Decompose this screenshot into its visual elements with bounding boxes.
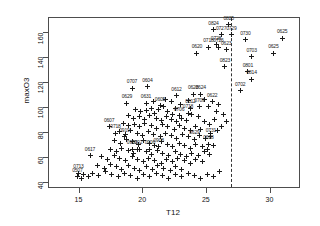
data-point (193, 142, 198, 147)
data-point (165, 124, 170, 129)
data-point-label: 0718 (203, 38, 213, 43)
data-point (192, 137, 197, 142)
data-point-label: 0718 (183, 104, 193, 109)
data-point (182, 143, 187, 148)
data-point-label: 0908 (154, 138, 164, 143)
data-point (216, 102, 221, 107)
y-tick-label: 160 (37, 32, 44, 58)
data-point (116, 174, 121, 179)
data-point-label: 0814 (246, 70, 256, 75)
y-tick-label: 140 (37, 57, 44, 83)
data-point (109, 172, 114, 177)
data-point (177, 113, 182, 118)
data-point (103, 169, 108, 174)
data-point (158, 103, 163, 108)
data-point (147, 113, 152, 118)
data-point-label: 0629 (122, 94, 132, 99)
data-point-label: 0629 (189, 130, 199, 135)
data-point (108, 147, 113, 152)
data-point (219, 124, 224, 129)
data-point (147, 174, 152, 179)
x-axis-label: T12 (128, 208, 218, 217)
y-tick-label: 60 (37, 157, 44, 183)
y-tick-mark (43, 132, 48, 133)
data-point-label: 0801 (243, 63, 253, 68)
data-point (212, 117, 217, 122)
data-point (99, 154, 104, 159)
data-point (108, 162, 113, 167)
data-point (95, 163, 100, 168)
data-point (130, 86, 135, 91)
data-point (210, 99, 215, 104)
data-point (135, 147, 140, 152)
data-point (196, 114, 201, 119)
data-point (184, 118, 189, 123)
data-point (194, 51, 199, 56)
data-point (122, 171, 127, 176)
data-point (249, 54, 254, 59)
data-point (117, 156, 122, 161)
data-point-label: 0702 (235, 82, 245, 87)
x-tick-mark (79, 188, 80, 193)
data-point (217, 169, 222, 174)
x-tick-label: 20 (130, 196, 154, 203)
data-point (146, 156, 151, 161)
data-point-label: 0703 (246, 48, 256, 53)
data-point (206, 104, 211, 109)
data-point-label: 0622 (207, 93, 217, 98)
data-point-label: 0823 (220, 58, 230, 63)
data-point (131, 116, 136, 121)
data-point (147, 147, 152, 152)
data-point (113, 131, 118, 136)
x-tick-label: 15 (67, 196, 91, 203)
data-point (135, 157, 140, 162)
data-point (145, 84, 150, 89)
data-point-label: 0631 (141, 94, 151, 99)
data-point (206, 45, 211, 50)
data-point (249, 77, 254, 82)
data-point (154, 126, 159, 131)
data-point (182, 126, 187, 131)
data-point (163, 131, 168, 136)
data-point-label: 0605 (155, 97, 165, 102)
data-point (142, 121, 147, 126)
x-tick-label: 30 (258, 196, 282, 203)
x-tick-mark (206, 188, 207, 193)
data-point (174, 93, 179, 98)
y-tick-label: 40 (37, 182, 44, 208)
data-point-label: 0625 (277, 29, 287, 34)
data-point (126, 163, 131, 168)
data-point (135, 176, 140, 181)
data-point-label: 0620 (192, 44, 202, 49)
data-point (86, 174, 91, 179)
data-point (144, 164, 149, 169)
data-point (154, 171, 159, 176)
y-tick-mark (43, 82, 48, 83)
data-point-label: 0617 (85, 147, 95, 152)
data-point (200, 159, 205, 164)
data-point (197, 104, 202, 109)
data-point (156, 144, 161, 149)
data-point (192, 173, 197, 178)
data-point (175, 156, 180, 161)
data-point (96, 173, 101, 178)
data-point (130, 147, 135, 152)
x-tick-mark (270, 188, 271, 193)
y-tick-mark (43, 57, 48, 58)
data-point-label: 0731 (206, 128, 216, 133)
data-point (141, 172, 146, 177)
data-point (186, 171, 191, 176)
data-point (166, 176, 171, 181)
data-point (173, 164, 178, 169)
data-point (160, 151, 165, 156)
data-point (229, 32, 234, 37)
data-point (211, 143, 216, 148)
data-point (205, 172, 210, 177)
data-point (75, 174, 80, 179)
data-point-label: 0707 (127, 79, 137, 84)
y-tick-mark (43, 157, 48, 158)
threshold-reference-line (231, 18, 232, 187)
data-point (222, 64, 227, 69)
data-point (179, 167, 184, 172)
y-tick-label: 120 (37, 82, 44, 108)
